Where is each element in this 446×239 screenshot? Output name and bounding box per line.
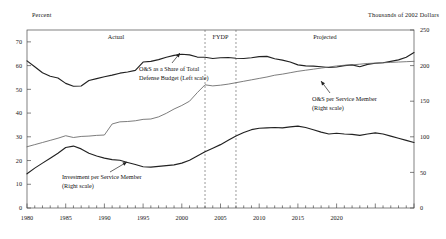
os-share-annotation: O&S as a Share of Total Defense Budget (…: [139, 65, 209, 82]
y-tick-left-10: 10: [6, 180, 22, 187]
y-tick-left-70: 70: [6, 38, 22, 45]
y-tick-right-100: 100: [420, 133, 438, 140]
x-tick-2010: 2010: [246, 214, 272, 221]
y-tick-left-40: 40: [6, 109, 22, 116]
x-tick-1980: 1980: [14, 214, 40, 221]
x-tick-1995: 1995: [130, 214, 156, 221]
y-tick-left-20: 20: [6, 157, 22, 164]
chart-container: Percent Thousands of 2002 Dollars 706050…: [0, 0, 446, 239]
os-share-leader-arrow: [172, 53, 180, 63]
region-label-projected: Projected: [295, 33, 355, 40]
investment-annotation-line1: Investment per Service Member: [62, 173, 142, 182]
investment-annotation-line2: (Right scale): [62, 182, 142, 191]
os-share-annotation-line1: O&S as a Share of Total: [139, 65, 209, 74]
y-tick-right-200: 200: [420, 62, 438, 69]
x-tick-1985: 1985: [53, 214, 79, 221]
os-share-annotation-line2: Defense Budget (Left scale): [139, 74, 209, 83]
series-line-2: [27, 126, 414, 174]
investment-per-member-annotation: Investment per Service Member (Right sca…: [62, 173, 142, 190]
x-tick-2005: 2005: [208, 214, 234, 221]
y-tick-right-250: 250: [420, 26, 438, 33]
investment-leader-arrow: [110, 162, 127, 172]
os-per-member-annotation: O&S per Service Member (Right scale): [312, 95, 377, 112]
region-label-fydp: FYDP: [191, 33, 251, 40]
os-per-member-annotation-line2: (Right scale): [312, 104, 377, 113]
x-tick-2015: 2015: [285, 214, 311, 221]
y-tick-right-150: 150: [420, 97, 438, 104]
x-tick-2000: 2000: [169, 214, 195, 221]
x-tick-2020: 2020: [324, 214, 350, 221]
y-tick-right-0: 0: [420, 204, 438, 211]
os-per-member-annotation-line1: O&S per Service Member: [312, 95, 377, 104]
series-line-0: [27, 53, 414, 87]
y-tick-left-50: 50: [6, 86, 22, 93]
region-label-actual: Actual: [86, 33, 146, 40]
y-tick-left-0: 0: [6, 204, 22, 211]
y-tick-right-50: 50: [420, 169, 438, 176]
y-tick-left-60: 60: [6, 62, 22, 69]
x-tick-1990: 1990: [91, 214, 117, 221]
os-per-member-leader-arrow: [321, 81, 330, 93]
y-tick-left-30: 30: [6, 133, 22, 140]
